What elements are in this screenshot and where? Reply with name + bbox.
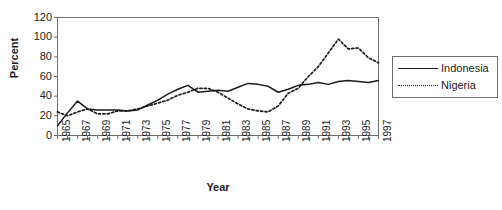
legend-line-swatch-dotted [398,85,438,88]
plot-area [0,0,502,210]
x-tick-label: 1985 [262,119,272,141]
x-tick-label: 1983 [242,119,252,141]
x-tick-label: 1975 [162,119,172,141]
x-tick-label: 1967 [82,119,92,141]
line-chart-figure: Percent Year 020406080100120 19651967196… [0,0,502,210]
legend-line-swatch-solid [398,68,438,71]
y-tick-label: 60 [18,71,52,82]
x-tick-label: 1965 [62,119,72,141]
y-tick-label: 80 [18,51,52,62]
x-tick-label: 1969 [102,119,112,141]
legend-entry-nigeria: Nigeria [398,78,496,94]
x-tick-label: 1971 [122,119,132,141]
y-tick-label: 20 [18,110,52,121]
y-tick-label: 0 [18,130,52,141]
y-tick-label: 100 [18,31,52,42]
series-line-nigeria [58,39,379,116]
x-tick-label: 1973 [142,119,152,141]
x-tick-label: 1993 [342,119,352,141]
y-tick-label: 120 [18,12,52,23]
x-tick-label: 1997 [383,119,393,141]
x-tick-label: 1987 [282,119,292,141]
x-tick-label: 1991 [322,119,332,141]
legend-entry-indonesia: Indonesia [398,61,496,77]
x-tick-label: 1995 [362,119,372,141]
y-tick-label: 40 [18,90,52,101]
x-tick-label: 1989 [302,119,312,141]
x-tick-label: 1977 [182,119,192,141]
legend-label-indonesia: Indonesia [441,62,489,75]
x-tick-label: 1979 [202,119,212,141]
chart-legend: Indonesia Nigeria [392,56,498,98]
x-tick-label: 1981 [222,119,232,141]
legend-label-nigeria: Nigeria [441,79,476,92]
x-axis-title: Year [57,181,379,193]
